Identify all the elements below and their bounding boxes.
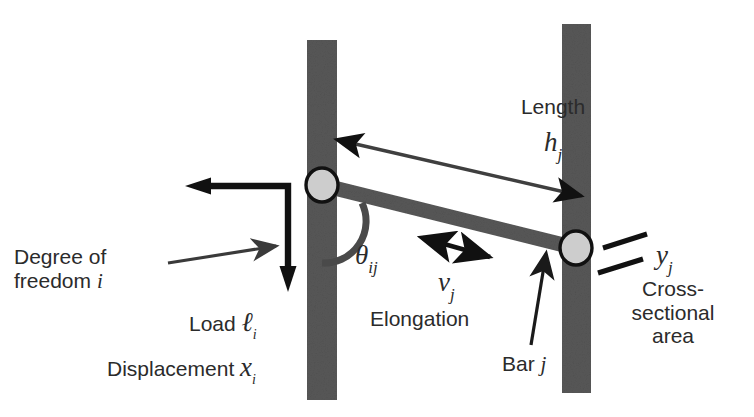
area-symbol: y <box>656 240 668 270</box>
load-displacement-arrow <box>185 178 297 293</box>
truss-diagram: Degree offreedom i Load ℓi Displacement … <box>0 0 754 417</box>
theta-symbol: θ <box>355 240 368 270</box>
cross-sectional-line2: sectional <box>632 301 715 324</box>
elongation-symbol: v <box>438 267 450 297</box>
load-symbol: ℓ <box>242 307 253 337</box>
angle-label: θij <box>355 240 378 273</box>
length-label: Length <box>443 95 663 119</box>
elongation-label: Elongation <box>370 307 469 331</box>
displacement-symbol: x <box>240 352 252 382</box>
displacement-subscript: i <box>252 372 256 387</box>
degree-of-freedom-line1: Degree of <box>14 245 106 268</box>
load-text: Load <box>189 312 236 335</box>
left-column <box>307 40 337 400</box>
degree-of-freedom-arrow <box>168 246 276 263</box>
degree-of-freedom-label: Degree offreedom i <box>14 245 106 293</box>
area-subscript: j <box>668 258 673 277</box>
cross-section-dashes <box>598 234 647 273</box>
degree-of-freedom-line2: freedom <box>14 269 91 292</box>
right-column <box>562 24 591 393</box>
area-symbol-label: yj <box>656 240 673 273</box>
displacement-label: Displacement xi <box>107 352 256 385</box>
elongation-subscript: j <box>450 285 455 304</box>
bar-label: Bar j <box>502 352 546 377</box>
load-subscript: i <box>253 327 257 342</box>
right-joint <box>560 231 592 265</box>
theta-subscript: ij <box>368 258 377 277</box>
bar-text: Bar <box>502 352 535 375</box>
cross-sectional-line3: area <box>652 324 694 347</box>
length-symbol-label: hj <box>443 127 663 160</box>
cross-sectional-line1: Cross- <box>642 277 704 300</box>
cross-sectional-area-label: Cross-sectionalarea <box>609 277 737 348</box>
left-joint <box>306 168 338 202</box>
load-label: Load ℓi <box>189 307 257 340</box>
length-symbol: h <box>544 127 558 157</box>
displacement-text: Displacement <box>107 357 234 380</box>
bar-index: j <box>541 352 547 376</box>
length-subscript: j <box>557 145 562 164</box>
bar-pointer-arrow <box>531 254 546 345</box>
degree-of-freedom-index: i <box>97 269 103 293</box>
elongation-arrow <box>423 238 490 257</box>
elongation-symbol-label: vj <box>438 267 455 300</box>
